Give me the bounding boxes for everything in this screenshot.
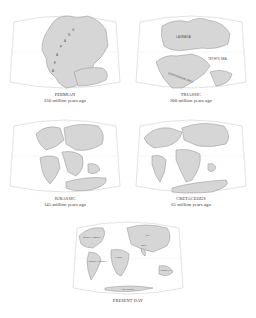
- panel-cretaceous: CRETACEOUS 65 million years ago: [132, 112, 250, 212]
- label-p: P: [60, 45, 62, 49]
- panel-jurassic: JURASSIC 145 million years ago: [6, 112, 124, 212]
- label-a3: A: [52, 69, 54, 73]
- age-label: 145 million years ago: [6, 202, 124, 208]
- caption-cretaceous: CRETACEOUS 65 million years ago: [132, 196, 250, 207]
- age-label: 250 million years ago: [6, 98, 124, 104]
- present-day-map: NORTH AMERICA SOUTH AMERICA AFRICA ASIA …: [69, 214, 187, 298]
- caption-present-day: PRESENT DAY: [69, 298, 187, 304]
- caption-permian: PERMIAN 250 million years ago: [6, 92, 124, 103]
- label-north-america: NORTH AMERICA: [83, 236, 102, 238]
- era-label: PRESENT DAY: [69, 298, 187, 304]
- panel-present-day: NORTH AMERICA SOUTH AMERICA AFRICA ASIA …: [69, 214, 187, 314]
- label-antarctica: ANTARCTICA: [121, 288, 135, 290]
- cretaceous-map: [132, 112, 250, 196]
- permian-map: P A N G A E A: [6, 8, 124, 92]
- label-tethys-sea: TETHYS SEA: [208, 57, 227, 61]
- panel-triassic: LAURASIA TETHYS SEA GONDWANALAND TRIASSI…: [132, 8, 250, 108]
- label-asia: ASIA: [145, 234, 151, 236]
- label-a2: A: [56, 53, 58, 57]
- label-australia: AUSTRALIA: [160, 269, 173, 271]
- label-south-america: SOUTH AMERICA: [89, 260, 108, 262]
- label-a1: A: [64, 39, 66, 43]
- caption-jurassic: JURASSIC 145 million years ago: [6, 196, 124, 207]
- jurassic-map: [6, 112, 124, 196]
- age-label: 200 million years ago: [132, 98, 250, 104]
- triassic-map: LAURASIA TETHYS SEA GONDWANALAND: [132, 8, 250, 92]
- label-e: E: [54, 61, 56, 65]
- label-india: INDIA: [141, 244, 147, 246]
- caption-triassic: TRIASSIC 200 million years ago: [132, 92, 250, 103]
- panel-permian: P A N G A E A PERMIAN 250 million years …: [6, 8, 124, 108]
- label-n: N: [68, 33, 70, 37]
- age-label: 65 million years ago: [132, 202, 250, 208]
- label-laurasia: LAURASIA: [176, 35, 191, 39]
- label-africa: AFRICA: [115, 256, 124, 258]
